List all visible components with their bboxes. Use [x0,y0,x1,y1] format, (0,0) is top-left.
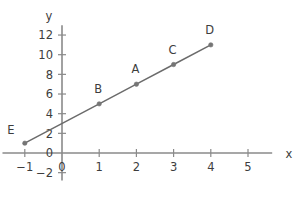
y-tick-label: 8 [46,68,53,82]
y-tick-label: 4 [46,107,53,121]
y-tick-label: 12 [38,28,53,42]
ticks-group [25,35,248,173]
y-tick-label: 10 [38,48,53,62]
chart-canvas: −1012345−2024681012 EBACD yx [0,0,297,198]
x-tick-label: 1 [96,160,103,174]
tick-labels-group: −1012345−2024681012 [16,28,251,180]
y-tick-label: 6 [46,87,53,101]
x-tick-label: 3 [170,160,177,174]
data-point[interactable] [209,43,213,47]
coordinate-plane-plot: −1012345−2024681012 EBACD yx [0,0,297,198]
data-point[interactable] [171,62,175,66]
data-point[interactable] [97,102,101,106]
data-point-label: A [131,62,139,76]
data-point[interactable] [23,141,27,145]
y-tick-label: 0 [46,146,53,160]
axis-names-group: yx [46,9,293,161]
y-tick-label: −2 [36,166,53,180]
data-point-label: C [169,43,177,57]
x-tick-label: 2 [133,160,140,174]
x-tick-label: −1 [16,160,33,174]
y-axis-label: y [46,9,53,23]
x-axis-label: x [286,147,293,161]
data-point-label: B [94,82,102,96]
x-tick-label: 5 [244,160,251,174]
x-tick-label: 4 [207,160,214,174]
data-point[interactable] [134,82,138,86]
data-point-label: E [7,123,14,137]
x-tick-label: 0 [58,160,65,174]
data-point-label: D [205,23,214,37]
